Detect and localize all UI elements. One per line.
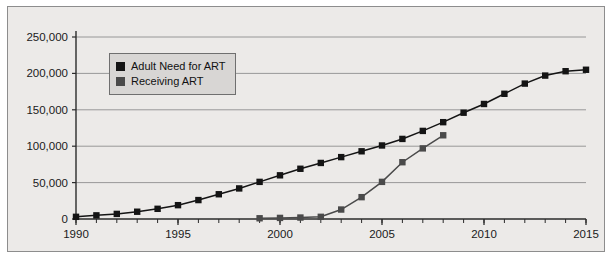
data-point-marker (481, 101, 487, 107)
data-point-marker (318, 160, 324, 166)
series-line (260, 135, 444, 218)
legend-swatch-adult-need (116, 62, 125, 71)
data-point-marker (440, 132, 446, 138)
data-point-marker (562, 68, 568, 74)
y-tick-label: 100,000 (26, 140, 68, 152)
data-point-marker (256, 179, 262, 185)
y-tick-label: 150,000 (26, 104, 68, 116)
chart-legend: Adult Need for ART Receiving ART (109, 53, 236, 95)
data-point-marker (399, 136, 405, 142)
legend-label-receiving: Receiving ART (131, 74, 204, 89)
data-point-marker (93, 212, 99, 218)
data-point-marker (236, 185, 242, 191)
x-tick-label: 1995 (165, 228, 191, 240)
legend-item-adult-need: Adult Need for ART (116, 59, 226, 74)
data-point-marker (440, 119, 446, 125)
data-point-marker (318, 214, 324, 220)
plot-area: 050,000100,000150,000200,000250,00019901… (8, 7, 606, 253)
chart-figure: 050,000100,000150,000200,000250,00019901… (7, 6, 605, 252)
y-tick-label: 0 (62, 213, 68, 225)
data-point-marker (134, 209, 140, 215)
data-point-marker (501, 91, 507, 97)
data-point-marker (358, 148, 364, 154)
data-point-marker (195, 197, 201, 203)
x-tick-label: 2005 (369, 228, 395, 240)
x-tick-label: 2000 (267, 228, 293, 240)
x-tick-label: 2015 (573, 228, 599, 240)
data-point-marker (420, 145, 426, 151)
data-point-marker (216, 191, 222, 197)
data-point-marker (379, 179, 385, 185)
data-point-marker (73, 214, 79, 220)
y-tick-label: 250,000 (26, 31, 68, 43)
legend-label-adult-need: Adult Need for ART (131, 59, 226, 74)
data-point-marker (542, 72, 548, 78)
data-point-marker (154, 206, 160, 212)
data-point-marker (420, 128, 426, 134)
data-point-marker (256, 215, 262, 221)
y-tick-label: 50,000 (33, 177, 68, 189)
data-point-marker (522, 80, 528, 86)
data-point-marker (114, 211, 120, 217)
x-tick-label: 1990 (63, 228, 89, 240)
data-point-marker (460, 110, 466, 116)
line-chart-svg: 050,000100,000150,000200,000250,00019901… (8, 7, 606, 253)
data-point-marker (338, 206, 344, 212)
data-point-marker (358, 194, 364, 200)
x-tick-label: 2010 (471, 228, 497, 240)
legend-swatch-receiving (116, 77, 125, 86)
data-point-marker (399, 159, 405, 165)
data-point-marker (338, 154, 344, 160)
legend-item-receiving: Receiving ART (116, 74, 226, 89)
data-point-marker (379, 142, 385, 148)
y-tick-label: 200,000 (26, 67, 68, 79)
data-point-marker (277, 172, 283, 178)
data-point-marker (583, 67, 589, 73)
data-point-marker (277, 215, 283, 221)
data-point-marker (297, 214, 303, 220)
data-point-marker (297, 166, 303, 172)
data-point-marker (175, 202, 181, 208)
